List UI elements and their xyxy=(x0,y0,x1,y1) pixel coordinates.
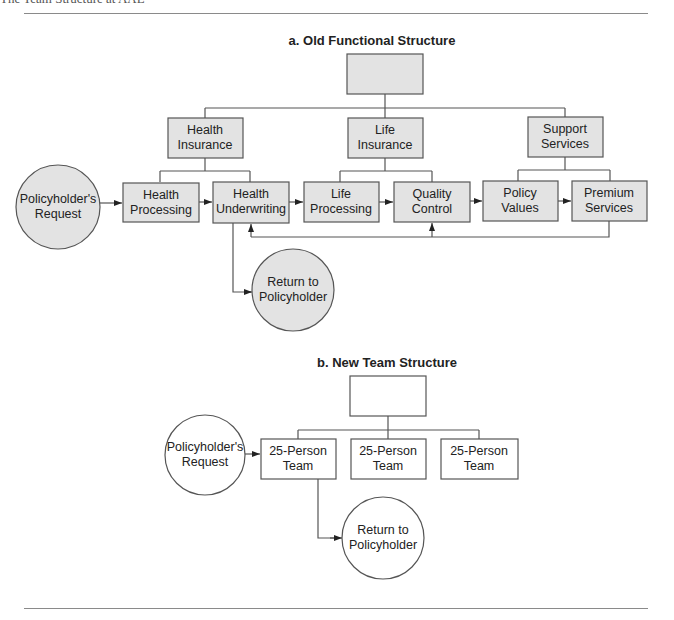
step-health-underwriting: Health Underwriting xyxy=(213,182,289,223)
svg-text:Control: Control xyxy=(412,202,452,216)
svg-text:25-Person: 25-Person xyxy=(269,444,327,458)
svg-text:Processing: Processing xyxy=(310,202,372,216)
org-diagrams: a. Old Functional Structure Health Insur… xyxy=(0,0,674,620)
support-connector xyxy=(518,157,610,181)
svg-text:Underwriting: Underwriting xyxy=(216,202,286,216)
svg-text:Return to: Return to xyxy=(357,523,408,537)
svg-text:Quality: Quality xyxy=(413,187,453,201)
svg-text:Policyholder's: Policyholder's xyxy=(20,192,97,206)
top-executive-box xyxy=(347,54,423,94)
svg-text:Life: Life xyxy=(375,123,395,137)
svg-text:Request: Request xyxy=(182,455,229,469)
step-health-processing: Health Processing xyxy=(123,183,199,222)
svg-text:Team: Team xyxy=(283,459,314,473)
life-connector xyxy=(340,158,432,182)
svg-text:Services: Services xyxy=(585,201,633,215)
svg-text:Policy: Policy xyxy=(503,186,537,200)
step-premium-services: Premium Services xyxy=(572,181,647,221)
department-health-insurance: Health Insurance xyxy=(168,118,243,158)
svg-text:Team: Team xyxy=(373,459,404,473)
svg-text:Return to: Return to xyxy=(267,275,318,289)
team-box-1: 25-Person Team xyxy=(261,439,336,479)
step-quality-control: Quality Control xyxy=(394,182,470,222)
return-to-policyholder-circle: Return to Policyholder xyxy=(252,249,334,331)
health-connector xyxy=(160,158,250,182)
svg-text:Health: Health xyxy=(187,123,223,137)
svg-text:Processing: Processing xyxy=(130,203,192,217)
svg-text:Insurance: Insurance xyxy=(178,138,233,152)
return-path-line xyxy=(233,223,251,292)
svg-text:Values: Values xyxy=(501,201,538,215)
svg-text:Support: Support xyxy=(543,122,587,136)
svg-text:25-Person: 25-Person xyxy=(359,444,417,458)
feedback-loop-line xyxy=(251,221,609,237)
department-life-insurance: Life Insurance xyxy=(348,118,423,158)
svg-text:Health: Health xyxy=(233,187,269,201)
svg-text:Request: Request xyxy=(35,207,82,221)
svg-text:Policyholder: Policyholder xyxy=(349,538,417,552)
team-box-3: 25-Person Team xyxy=(441,439,518,479)
department-support-services: Support Services xyxy=(528,117,603,157)
new-team-structure: b. New Team Structure Policyholder's Req… xyxy=(165,355,518,579)
old-functional-structure: a. Old Functional Structure Health Insur… xyxy=(16,33,647,331)
old-structure-title: a. Old Functional Structure xyxy=(289,33,456,48)
top-executive-box xyxy=(350,376,426,416)
new-structure-title: b. New Team Structure xyxy=(317,355,457,370)
svg-text:Services: Services xyxy=(541,137,589,151)
svg-text:Policyholder's: Policyholder's xyxy=(167,440,244,454)
hierarchy-connector xyxy=(298,416,479,440)
policyholder-request-circle: Policyholder's Request xyxy=(165,415,245,495)
policyholder-request-circle: Policyholder's Request xyxy=(16,165,100,249)
hierarchy-connector xyxy=(205,94,565,118)
svg-text:Premium: Premium xyxy=(584,186,634,200)
svg-text:Policyholder: Policyholder xyxy=(259,290,327,304)
svg-text:Life: Life xyxy=(331,187,351,201)
svg-text:Team: Team xyxy=(464,459,495,473)
svg-text:Health: Health xyxy=(143,188,179,202)
step-life-processing: Life Processing xyxy=(304,182,379,222)
return-path-line xyxy=(318,479,338,538)
return-to-policyholder-circle: Return to Policyholder xyxy=(342,497,424,579)
step-policy-values: Policy Values xyxy=(483,181,558,221)
svg-text:Insurance: Insurance xyxy=(358,138,413,152)
svg-text:25-Person: 25-Person xyxy=(450,444,508,458)
team-box-2: 25-Person Team xyxy=(351,439,426,479)
